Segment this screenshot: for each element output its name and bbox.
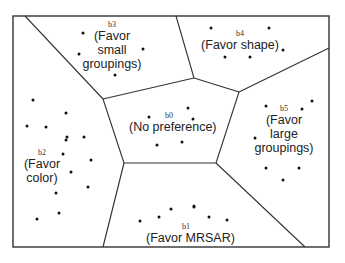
region-description: (No preference) <box>129 120 217 134</box>
region-description: (Favor shape) <box>201 38 279 52</box>
sample-point-b4 <box>249 56 252 59</box>
sample-point-b0 <box>187 107 190 110</box>
boundary-line <box>216 92 239 163</box>
sample-point-b2 <box>45 126 48 129</box>
sample-point-b2 <box>58 212 61 215</box>
boundary-line <box>103 99 124 163</box>
region-label-b4: b4 (Favor shape) <box>200 30 280 52</box>
sample-point-b0 <box>181 141 184 144</box>
sample-point-b2 <box>83 136 86 139</box>
region-label-b0: b0 (No preference) <box>129 112 209 134</box>
region-id: b0 <box>129 112 209 120</box>
sample-point-b0 <box>156 144 159 147</box>
region-id: b2 <box>14 149 70 157</box>
region-label-b1: b1 (Favor MRSAR) <box>146 223 226 245</box>
sample-point-b5 <box>282 179 285 182</box>
region-description: (Favor <box>24 157 60 171</box>
sample-point-b2 <box>65 112 68 115</box>
boundary-line <box>176 16 194 78</box>
boundary-line <box>194 78 239 92</box>
region-label-b3: b3 (Favor small groupings) <box>80 21 144 71</box>
sample-point-b2 <box>90 159 93 162</box>
region-description: color) <box>26 171 57 185</box>
region-description: groupings) <box>82 57 141 71</box>
sample-point-b2 <box>87 186 90 189</box>
sample-point-b1 <box>158 216 161 219</box>
sample-point-b1 <box>170 208 173 211</box>
sample-point-b5 <box>265 167 268 170</box>
region-description: groupings) <box>254 141 313 155</box>
sample-point-b5 <box>311 100 314 103</box>
boundary-line <box>103 78 194 99</box>
sample-point-b5 <box>298 167 301 170</box>
sample-point-b1 <box>208 216 211 219</box>
region-label-b2: b2 (Favor color) <box>14 149 70 185</box>
region-description: (Favor <box>266 113 302 127</box>
sample-point-b1 <box>193 206 196 209</box>
region-description: small <box>97 43 126 57</box>
region-id: b5 <box>252 105 316 113</box>
sample-point-b2 <box>32 99 35 102</box>
sample-point-b1 <box>226 219 229 222</box>
region-label-b5: b5 (Favor large groupings) <box>252 105 316 155</box>
sample-point-b4 <box>282 49 285 52</box>
sample-point-b1 <box>139 220 142 223</box>
region-id: b1 <box>146 223 226 231</box>
region-id: b4 <box>200 30 280 38</box>
sample-point-b2 <box>26 125 29 128</box>
boundary-line <box>239 48 329 92</box>
region-id: b3 <box>80 21 144 29</box>
sample-point-b2 <box>36 218 39 221</box>
sample-point-b2 <box>55 192 58 195</box>
sample-point-b2 <box>66 136 69 139</box>
sample-point-b3 <box>114 74 117 77</box>
sample-point-b2 <box>65 139 68 142</box>
boundary-line <box>103 163 124 247</box>
region-description: large <box>270 127 298 141</box>
region-description: (Favor MRSAR) <box>146 231 235 245</box>
sample-point-b4 <box>224 56 227 59</box>
region-description: (Favor <box>94 29 130 43</box>
